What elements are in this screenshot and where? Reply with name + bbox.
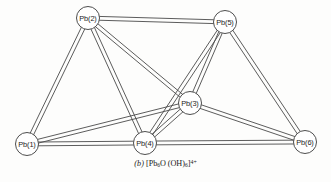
caption-index: (b) bbox=[134, 159, 144, 168]
bond-pb2-pb1 bbox=[30, 27, 85, 135]
bond-edge-b bbox=[38, 141, 134, 142]
bond-edge-b bbox=[33, 29, 85, 135]
bond-edge-b bbox=[156, 140, 294, 141]
structure-diagram: Pb(1)Pb(2)Pb(3)Pb(4)Pb(5)Pb(6) bbox=[0, 0, 331, 182]
bond-edge-a bbox=[152, 109, 181, 135]
bond-edge-a bbox=[99, 20, 214, 23]
bond-edge-a bbox=[30, 27, 82, 133]
caption-formula: [Pb6O (OH)6]4+ bbox=[146, 159, 197, 168]
bond-edge-a bbox=[91, 29, 139, 134]
bond-layer bbox=[30, 16, 300, 145]
bond-edge-b bbox=[98, 24, 183, 95]
bond-edge-b bbox=[154, 112, 183, 138]
bond-pb2-pb4 bbox=[91, 27, 142, 134]
atom-node-pb2[interactable]: Pb(2) bbox=[77, 7, 100, 30]
figure-caption: (b) [Pb6O (OH)6]4+ bbox=[0, 159, 331, 168]
bond-pb1-pb3 bbox=[37, 104, 180, 143]
atom-node-pb3[interactable]: Pb(3) bbox=[179, 92, 202, 115]
bond-pb5-pb3 bbox=[193, 31, 223, 94]
bond-edge-a bbox=[38, 145, 134, 146]
atom-label-pb6: Pb(6) bbox=[296, 138, 313, 147]
caption-hydroxide: (OH) bbox=[168, 159, 185, 168]
atom-label-pb3: Pb(3) bbox=[181, 99, 198, 108]
bond-pb4-pb6 bbox=[156, 140, 294, 145]
bond-pb2-pb3 bbox=[95, 24, 183, 98]
bond-edge-a bbox=[95, 26, 180, 97]
bond-edge-a bbox=[229, 32, 297, 134]
figure-root: Pb(1)Pb(2)Pb(3)Pb(4)Pb(5)Pb(6) (b) [Pb6O… bbox=[0, 0, 331, 182]
bond-edge-b bbox=[153, 32, 221, 135]
bond-edge-a bbox=[149, 30, 217, 133]
bond-edge-a bbox=[156, 144, 294, 145]
caption-charge: 4+ bbox=[190, 159, 196, 165]
atom-label-pb2: Pb(2) bbox=[79, 14, 96, 23]
bond-pb2-pb5 bbox=[99, 16, 214, 23]
atom-node-pb6[interactable]: Pb(6) bbox=[294, 131, 317, 154]
bond-edge-a bbox=[200, 108, 294, 140]
bond-edge-b bbox=[99, 16, 214, 19]
caption-element-pb: Pb bbox=[149, 159, 158, 168]
bond-edge-b bbox=[233, 30, 301, 132]
bond-pb1-pb4 bbox=[38, 141, 134, 146]
atom-node-pb5[interactable]: Pb(5) bbox=[214, 11, 237, 34]
bond-pb5-pb4 bbox=[149, 30, 220, 135]
atom-node-pb1[interactable]: Pb(1) bbox=[16, 133, 39, 156]
bond-edge-b bbox=[94, 27, 142, 132]
atom-label-pb5: Pb(5) bbox=[216, 18, 233, 27]
atom-node-pb4[interactable]: Pb(4) bbox=[134, 132, 157, 155]
atom-label-pb4: Pb(4) bbox=[136, 139, 153, 148]
atom-label-pb1: Pb(1) bbox=[18, 140, 35, 149]
